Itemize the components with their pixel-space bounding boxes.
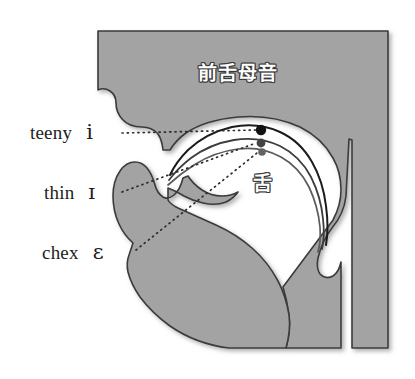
annotation-tongue: 舌	[253, 168, 272, 195]
vowel-diagram-canvas: teeny i thin ɪ chex ɛ 前舌母音 舌	[0, 0, 415, 379]
tongue-highpoint-dot-teeny	[256, 125, 266, 135]
vowel-word-chex: chex	[42, 242, 79, 264]
annotation-front-vowels: 前舌母音	[198, 58, 278, 85]
vowel-ipa-chex: ɛ	[93, 240, 104, 264]
tongue-highpoint-dot-thin	[257, 139, 266, 148]
vowel-ipa-thin: ɪ	[88, 180, 95, 204]
vowel-label-thin: thin ɪ	[44, 180, 95, 204]
vowel-label-teeny: teeny i	[30, 120, 93, 144]
vowel-word-thin: thin	[44, 182, 74, 204]
tongue-highpoint-dot-chex	[258, 148, 266, 156]
vowel-label-chex: chex ɛ	[42, 240, 104, 264]
vowel-word-teeny: teeny	[30, 122, 72, 144]
vowel-ipa-teeny: i	[86, 120, 93, 144]
